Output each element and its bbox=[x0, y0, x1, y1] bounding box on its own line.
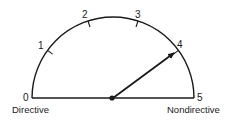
gauge-arc bbox=[32, 17, 194, 98]
gauge-diagram: 0 1 2 3 4 5 Directive Nondirective bbox=[0, 0, 228, 120]
scale-label-0: 0 bbox=[23, 92, 29, 103]
tick-2 bbox=[88, 21, 90, 27]
scale-label-2: 2 bbox=[82, 9, 88, 20]
pointer-arrow bbox=[113, 53, 174, 98]
tick-3 bbox=[136, 21, 138, 27]
scale-label-3: 3 bbox=[135, 9, 141, 20]
tick-1 bbox=[48, 50, 53, 54]
pivot-dot bbox=[109, 95, 114, 100]
scale-label-5: 5 bbox=[197, 92, 203, 103]
scale-label-4: 4 bbox=[177, 39, 183, 50]
left-end-label: Directive bbox=[12, 104, 49, 115]
scale-label-1: 1 bbox=[38, 40, 44, 51]
tick-marks bbox=[48, 21, 179, 54]
right-end-label: Nondirective bbox=[167, 104, 220, 115]
